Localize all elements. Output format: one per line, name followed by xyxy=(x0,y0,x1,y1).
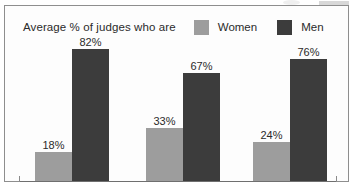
x-axis-baseline xyxy=(19,181,337,182)
bar-label-men-group-2: 67% xyxy=(183,60,220,72)
bar-label-men-group-3: 76% xyxy=(290,46,327,58)
plot-area: 18% 82% 33% 67% 24% 76% xyxy=(5,6,350,183)
axis-tick-right xyxy=(336,176,337,182)
bar-women-group-3 xyxy=(253,142,290,181)
bar-label-women-group-3: 24% xyxy=(253,129,290,141)
bar-women-group-1 xyxy=(35,152,72,181)
grouped-bar-chart: Average % of judges who are Women Men 18… xyxy=(4,5,349,182)
bar-label-women-group-2: 33% xyxy=(146,115,183,127)
bar-women-group-2 xyxy=(146,128,183,181)
bar-label-women-group-1: 18% xyxy=(35,139,72,151)
bar-men-group-1 xyxy=(72,49,109,181)
bar-men-group-3 xyxy=(290,59,327,181)
bar-men-group-2 xyxy=(183,73,220,181)
axis-tick-left xyxy=(19,176,20,182)
bar-label-men-group-1: 82% xyxy=(72,36,109,48)
